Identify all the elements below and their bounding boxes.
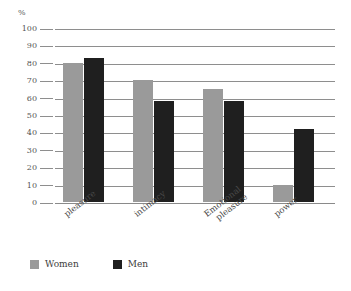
y-axis-tick-label: 20 (7, 164, 37, 172)
y-axis-tick-label: 80 (7, 60, 37, 68)
y-axis-tick-mark (40, 150, 53, 151)
y-axis-tick-label: 0 (7, 199, 37, 207)
legend-label: Men (128, 259, 148, 269)
y-axis-tick-mark (40, 185, 53, 186)
legend-swatch-men (113, 260, 122, 269)
y-axis-tick-mark (40, 116, 53, 117)
legend-label: Women (45, 259, 79, 269)
bar-men-0 (84, 58, 104, 202)
bar-chart: % 1009080706050403020100 pleasureintimac… (0, 0, 351, 291)
bar-men-1 (154, 101, 174, 202)
plot-area (55, 29, 335, 203)
gridline (55, 29, 335, 30)
legend-item-men: Men (113, 259, 148, 269)
y-axis-tick-label: 50 (7, 112, 37, 120)
bar-women-1 (133, 80, 153, 202)
y-axis-tick-label: 90 (7, 42, 37, 50)
y-axis-tick-mark (40, 133, 53, 134)
legend-item-women: Women (30, 259, 79, 269)
y-axis-tick-mark (40, 81, 53, 82)
y-axis-tick-mark (40, 168, 53, 169)
y-axis-tick-label: 70 (7, 77, 37, 85)
legend-swatch-women (30, 260, 39, 269)
bar-women-0 (63, 63, 83, 202)
y-axis-tick-mark (40, 98, 53, 99)
y-axis-tick-label: 10 (7, 182, 37, 190)
gridline (55, 46, 335, 47)
y-axis-tick-label: 30 (7, 147, 37, 155)
chart-legend: WomenMen (30, 259, 148, 269)
y-axis-tick-mark (40, 46, 53, 47)
y-axis-tick-mark (40, 63, 53, 64)
y-axis-unit-label: % (18, 8, 26, 17)
y-axis-tick-mark (40, 29, 53, 30)
bar-women-2 (203, 89, 223, 202)
y-axis-tick-label: 100 (7, 25, 37, 33)
y-axis-tick-label: 40 (7, 129, 37, 137)
y-axis-tick-label: 60 (7, 95, 37, 103)
y-axis-tick-mark (40, 203, 53, 204)
bar-men-3 (294, 129, 314, 202)
